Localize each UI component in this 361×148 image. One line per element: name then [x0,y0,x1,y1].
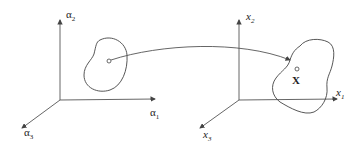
deformed-point [295,67,299,71]
alpha1-axis [60,99,155,100]
right-axes [200,20,337,128]
alpha3-axis [22,100,60,128]
left-axes [22,20,155,128]
x3-label: x3 [202,128,212,143]
alpha3-label: α3 [24,126,34,141]
reference-point [107,59,111,63]
reference-region [84,38,127,91]
alpha2-label: α2 [66,8,76,23]
mapping-diagram: α2 α1 α3 x2 x1 x3 X [0,0,361,148]
deformed-region [273,39,334,113]
alpha1-label: α1 [150,106,160,121]
x1-axis [239,99,337,100]
x2-label: x2 [245,10,255,25]
x3-axis [200,100,239,128]
mapping-arrow [111,46,290,60]
point-x-label: X [292,74,300,86]
